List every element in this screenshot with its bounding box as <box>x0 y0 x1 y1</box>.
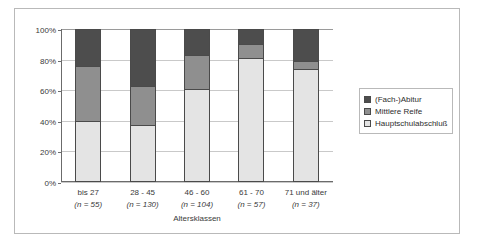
bar-slot <box>279 29 333 182</box>
bar-slot <box>61 29 115 182</box>
y-axis-tick-label: 20% <box>40 148 56 157</box>
y-axis-tick-label: 60% <box>40 87 56 96</box>
x-axis-category-label: bis 27(n = 55) <box>61 187 115 211</box>
bar-segment[interactable] <box>238 44 264 58</box>
legend-item[interactable]: Mittlere Reife <box>364 105 447 117</box>
bar-slot <box>170 29 224 182</box>
bar-segment[interactable] <box>75 29 101 66</box>
y-axis-tick-label: 40% <box>40 117 56 126</box>
stacked-bar[interactable] <box>238 29 264 182</box>
legend-item-label: Mittlere Reife <box>375 107 422 116</box>
bar-slot <box>115 29 169 182</box>
legend-item[interactable]: Hauptschulabschluß <box>364 117 447 129</box>
y-axis-tick-mark <box>58 183 61 184</box>
x-axis-category-label: 71 und älter(n = 37) <box>279 187 333 211</box>
bar-slot <box>224 29 278 182</box>
x-axis-labels: bis 27(n = 55)28 - 45(n = 130)46 - 60(n … <box>61 187 333 211</box>
x-axis-category-label: 28 - 45(n = 130) <box>115 187 169 211</box>
category-sample-size: (n = 130) <box>115 199 169 211</box>
bar-segment[interactable] <box>130 29 156 86</box>
x-axis-category-label: 61 - 70(n = 57) <box>224 187 278 211</box>
bar-segment[interactable] <box>75 66 101 121</box>
bar-segment[interactable] <box>293 29 319 61</box>
stacked-bar[interactable] <box>75 29 101 182</box>
bar-segment[interactable] <box>75 121 101 182</box>
chart-legend: (Fach-)AbiturMittlere ReifeHauptschulabs… <box>359 88 453 134</box>
legend-swatch-icon <box>364 120 371 127</box>
stacked-bar[interactable] <box>293 29 319 182</box>
bar-segment[interactable] <box>184 89 210 182</box>
stacked-bar[interactable] <box>130 29 156 182</box>
category-name: 46 - 60 <box>170 187 224 199</box>
legend-item-label: (Fach-)Abitur <box>375 95 422 104</box>
bar-series-group <box>61 29 333 182</box>
category-sample-size: (n = 57) <box>224 199 278 211</box>
gridline: 0% <box>61 182 333 183</box>
category-name: 71 und älter <box>279 187 333 199</box>
bar-segment[interactable] <box>130 125 156 182</box>
legend-item[interactable]: (Fach-)Abitur <box>364 93 447 105</box>
bar-segment[interactable] <box>293 69 319 182</box>
category-sample-size: (n = 55) <box>61 199 115 211</box>
bar-segment[interactable] <box>293 61 319 69</box>
x-axis-title: Altersklassen <box>61 214 333 223</box>
chart-frame: 100%80%60%40%20%0% bis 27(n = 55)28 - 45… <box>14 8 460 234</box>
category-sample-size: (n = 37) <box>279 199 333 211</box>
bar-segment[interactable] <box>184 29 210 55</box>
x-axis-category-label: 46 - 60(n = 104) <box>170 187 224 211</box>
legend-swatch-icon <box>364 96 371 103</box>
legend-swatch-icon <box>364 108 371 115</box>
legend-item-label: Hauptschulabschluß <box>375 119 447 128</box>
y-axis-tick-label: 80% <box>40 56 56 65</box>
bar-segment[interactable] <box>184 55 210 89</box>
bar-segment[interactable] <box>238 29 264 44</box>
category-sample-size: (n = 104) <box>170 199 224 211</box>
bar-segment[interactable] <box>130 86 156 126</box>
category-name: 28 - 45 <box>115 187 169 199</box>
plot-area: 100%80%60%40%20%0% <box>61 29 333 182</box>
y-axis-tick-label: 100% <box>36 26 56 35</box>
y-axis-tick-label: 0% <box>44 179 56 188</box>
bar-segment[interactable] <box>238 58 264 182</box>
stacked-bar[interactable] <box>184 29 210 182</box>
category-name: bis 27 <box>61 187 115 199</box>
category-name: 61 - 70 <box>224 187 278 199</box>
